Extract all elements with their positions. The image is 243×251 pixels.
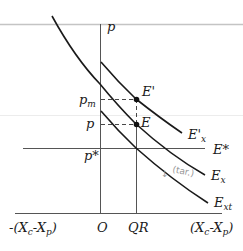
curve-ex [52, 16, 205, 175]
curve-ex-prime-label: E'x [187, 127, 206, 144]
curve-ext-label: Ext [213, 195, 233, 212]
p-label: p [86, 116, 95, 131]
point-e [134, 122, 140, 128]
curve-ex-label: Ex [210, 168, 226, 185]
economics-diagram: p E' E pm p p* E'x E* Ex Ext ↓ (tar.) -(… [0, 0, 243, 251]
pstar-label: p* [84, 148, 99, 163]
price-axis-label: p [107, 19, 116, 34]
axis-left-label: -(Xc-Xp) [9, 220, 57, 237]
qr-label: QR [128, 220, 149, 235]
point-e-label: E [140, 115, 151, 130]
origin-label: O [97, 220, 108, 235]
pm-label: pm [79, 92, 96, 109]
tariff-arrow-icon: ↓ [161, 169, 169, 179]
point-e-prime [134, 97, 140, 103]
point-e-prime-label: E' [141, 84, 155, 99]
axis-right-label: (Xc-Xp) [190, 220, 233, 237]
curve-estar-label: E* [212, 142, 229, 157]
